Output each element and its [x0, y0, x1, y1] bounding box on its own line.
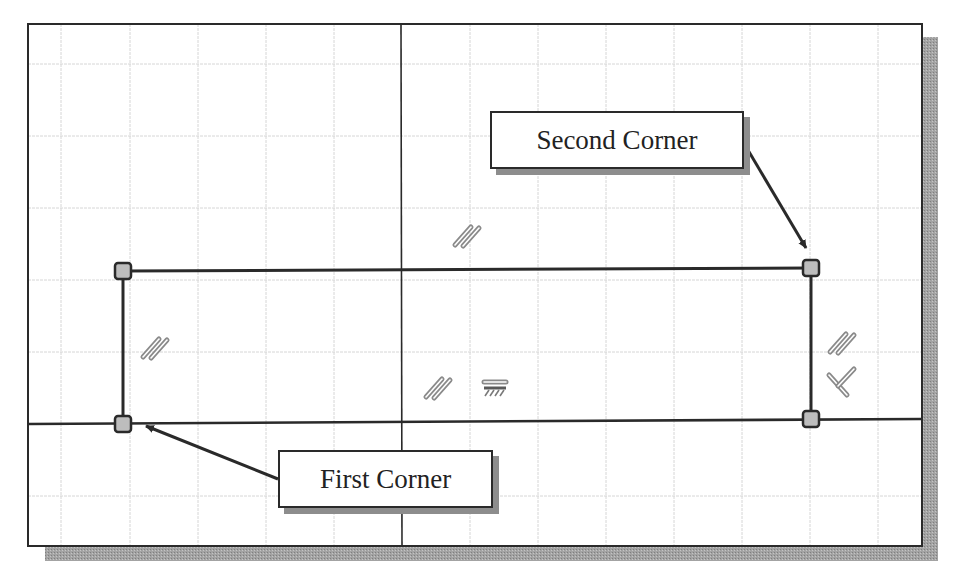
first-corner-callout: First Corner: [278, 450, 493, 508]
first-corner-label: First Corner: [320, 464, 451, 495]
corner-point-marker-bottom-right[interactable]: [803, 411, 819, 427]
corner-point-marker-top-left[interactable]: [115, 263, 131, 279]
corner-point-marker-top-right[interactable]: [803, 260, 819, 276]
corner-point-marker-bottom-left[interactable]: [115, 416, 131, 432]
second-corner-callout: Second Corner: [490, 111, 744, 169]
second-corner-label: Second Corner: [536, 125, 697, 156]
